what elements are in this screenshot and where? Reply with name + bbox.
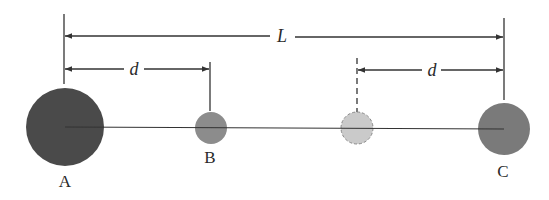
- dimension-l-label: L: [276, 26, 287, 46]
- sphere-b-label: B: [204, 148, 215, 167]
- center-line: [65, 127, 504, 129]
- sphere-a-label: A: [59, 172, 72, 191]
- sphere-c-label: C: [497, 162, 508, 181]
- diagram-canvas: L d d A B C: [0, 0, 549, 200]
- dimension-d-left-label: d: [130, 59, 140, 79]
- dimension-d-right-label: d: [428, 60, 438, 80]
